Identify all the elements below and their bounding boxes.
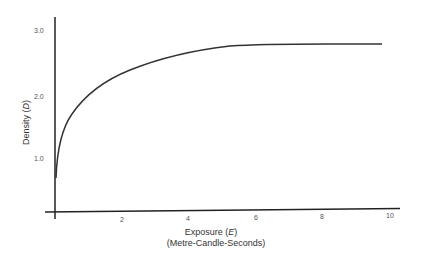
x-axis-subtitle: (Metre-Candle-Seconds) <box>167 238 266 248</box>
x-axis <box>45 209 400 213</box>
y-axis-title: Density (D) <box>21 100 31 145</box>
x-tick-8: 8 <box>320 213 324 220</box>
x-tick-10: 10 <box>386 212 394 219</box>
density-exposure-chart: 3.0 2.0 1.0 2 4 6 8 10 Density (D) Expos… <box>0 0 421 259</box>
x-tick-2: 2 <box>120 216 124 223</box>
x-tick-6: 6 <box>254 214 258 221</box>
x-axis-title: Exposure (E) <box>185 227 238 237</box>
x-tick-4: 4 <box>186 215 190 222</box>
y-tick-2: 2.0 <box>34 93 44 100</box>
y-tick-3: 3.0 <box>34 27 44 34</box>
characteristic-curve <box>56 44 382 178</box>
y-tick-1: 1.0 <box>34 155 44 162</box>
